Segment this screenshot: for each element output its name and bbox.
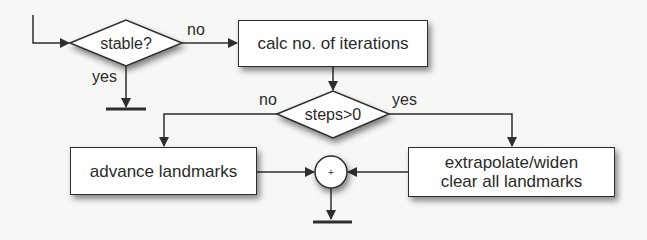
edge-steps-yes [389,114,512,146]
process-calc-iterations: calc no. of iterations [238,20,428,67]
process-extrapolate-line1: extrapolate/widen [445,153,578,172]
edge-label-stable-no: no [187,22,205,38]
edge-label-steps-yes: yes [392,92,417,108]
edge-label-steps-no: no [259,92,277,108]
merge-plus-symbol: + [328,167,334,178]
process-extrapolate-line2: clear all landmarks [441,172,583,191]
entry-arrow [33,15,69,43]
edge-steps-no [164,114,277,146]
decision-stable-label: stable? [100,36,152,52]
edge-label-stable-yes: yes [92,69,117,85]
decision-steps-label: steps>0 [305,107,361,123]
process-advance-landmarks-label: advance landmarks [90,162,237,181]
process-advance-landmarks: advance landmarks [70,147,257,195]
process-extrapolate: extrapolate/widen clear all landmarks [408,147,615,197]
process-calc-iterations-label: calc no. of iterations [257,34,408,53]
flowchart: stable? steps>0 no yes no yes calc no. o… [0,0,647,240]
